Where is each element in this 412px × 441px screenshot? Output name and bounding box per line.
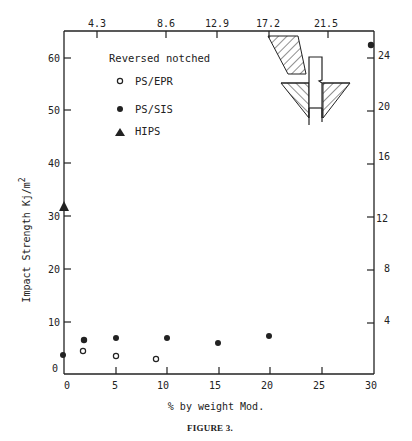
right-tick-label: 24 (378, 50, 390, 61)
top-tick-label: 4.3 (88, 18, 106, 29)
figure-caption: FIGURE 3. (187, 423, 233, 433)
y-tick-label: 30 (48, 211, 60, 222)
left-y-ticks: 60 50 40 30 20 10 0 (48, 53, 71, 374)
y-tick-label: 20 (48, 264, 60, 275)
bottom-x-ticks: 0 5 10 15 20 25 30 (64, 367, 377, 391)
top-tick-label: 8.6 (157, 18, 175, 29)
y-axis-title: Impact Strength Kj/m2 (18, 177, 32, 302)
data-point (113, 335, 119, 341)
data-point (266, 333, 272, 339)
top-axis-ticks: 4.3 8.6 12.9 17.2 21.5 (88, 18, 338, 38)
data-point (80, 348, 85, 353)
y-tick-label: 60 (48, 53, 60, 64)
right-tick-label: 12 (376, 213, 388, 224)
data-point (215, 340, 221, 346)
filled-circle-marker-icon (117, 106, 123, 112)
x-tick-label: 25 (313, 380, 325, 391)
x-tick-label: 30 (365, 380, 377, 391)
right-tick-label: 4 (384, 315, 390, 326)
legend-item-ps-sis: PS/SIS (135, 103, 173, 115)
data-point (113, 353, 118, 358)
data-point (153, 356, 158, 361)
legend: Reversed notched PS/EPR PS/SIS HIPS (109, 52, 210, 137)
top-tick-label: 12.9 (205, 18, 229, 29)
right-tick-label: 20 (378, 101, 390, 112)
x-tick-label: 5 (112, 380, 118, 391)
legend-title: Reversed notched (109, 52, 210, 64)
filled-triangle-marker-icon (115, 128, 125, 136)
top-tick-label: 21.5 (314, 18, 338, 29)
open-circle-marker-icon (117, 78, 122, 83)
series-hips (59, 201, 69, 211)
legend-item-hips: HIPS (135, 125, 160, 137)
series-ps-epr (80, 348, 158, 361)
data-point (368, 42, 374, 48)
y-tick-label: 10 (48, 317, 60, 328)
data-point (60, 352, 66, 358)
y-tick-label: 50 (48, 105, 60, 116)
data-point (164, 335, 170, 341)
right-tick-label: 16 (378, 151, 390, 162)
x-axis-title: % by weight Mod. (168, 401, 264, 412)
x-tick-label: 0 (64, 380, 70, 391)
y-tick-label: 40 (48, 158, 60, 169)
data-point (59, 201, 69, 211)
x-tick-label: 10 (157, 380, 169, 391)
y-tick-label: 0 (52, 363, 58, 374)
x-tick-label: 20 (261, 380, 273, 391)
data-point (81, 337, 87, 343)
right-tick-label: 8 (384, 263, 390, 274)
right-axis-ticks: 24 20 16 12 8 4 (367, 50, 390, 326)
x-tick-label: 15 (209, 380, 221, 391)
notch-specimen-diagram-icon (268, 36, 350, 125)
legend-item-ps-epr: PS/EPR (135, 75, 174, 87)
top-tick-label: 17.2 (256, 18, 280, 29)
impact-strength-chart: 60 50 40 30 20 10 0 0 5 10 15 20 25 30 4… (0, 0, 412, 441)
